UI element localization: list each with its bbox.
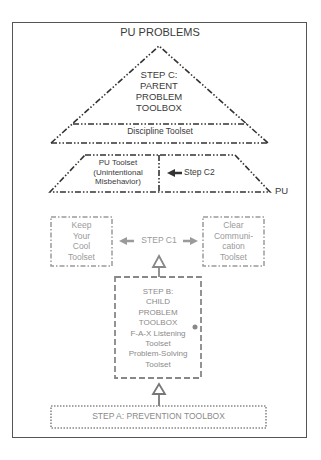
pu-toolset-label: PU Toolset (Unintentional Misbehavior) bbox=[78, 158, 158, 187]
arrow-left-icon bbox=[119, 237, 127, 245]
arrow-up-icon bbox=[153, 384, 165, 394]
step-c2-label: Step C2 bbox=[184, 168, 224, 177]
arrow-up-icon bbox=[153, 256, 165, 267]
clear-comm-label: Clear Communi- cation Toolset bbox=[203, 220, 264, 262]
keep-cool-label: Keep Your Cool Toolset bbox=[51, 220, 112, 262]
arrow-right-icon bbox=[190, 237, 198, 245]
title: PU PROBLEMS bbox=[100, 27, 220, 39]
step-a-label: STEP A: PREVENTION TOOLBOX bbox=[51, 412, 266, 421]
arrow-left-icon bbox=[167, 169, 175, 177]
step-c-label: STEP C: PARENT PROBLEM TOOLBOX bbox=[110, 69, 208, 113]
step-b-label: STEP B: CHILD PROBLEM TOOLBOX F-A-X List… bbox=[116, 287, 200, 370]
discipline-toolset: Discipline Toolset bbox=[90, 127, 230, 136]
step-c1-label: STEP C1 bbox=[134, 236, 184, 245]
pu-side-label: PU bbox=[275, 186, 295, 196]
